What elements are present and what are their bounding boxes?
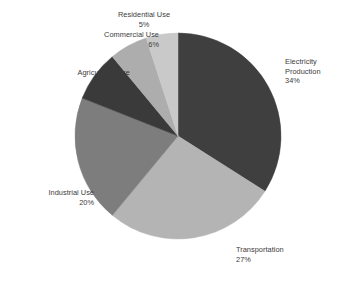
pie-chart-figure: Electricity Production 34% Transportatio… [0,0,341,282]
slice-label-value: 27% [236,255,284,265]
slice-label-residential-use: Residential Use 5% [118,10,170,29]
pie-slice-group [75,33,281,239]
slice-label-name-line1: Residential Use [118,10,170,20]
slice-label-name-line1: Transportation [236,245,284,255]
slice-label-industrial-use: Industrial Use 20% [49,188,94,207]
slice-label-commercial-use: Commercial Use 6% [104,30,159,49]
slice-label-agricultural-use: Agricultural Use 8% [78,68,130,87]
slice-label-name-line1: Electricity [285,57,321,67]
slice-label-name-line1: Industrial Use [49,188,94,198]
slice-label-transportation: Transportation 27% [236,245,284,264]
slice-label-name-line1: Commercial Use [104,30,159,40]
slice-label-name-line1: Agricultural Use [78,68,130,78]
slice-label-name-line2: Production [285,67,321,77]
slice-label-value: 20% [49,198,94,208]
pie-chart-svg [0,0,341,282]
slice-label-value: 6% [104,40,159,50]
slice-label-electricity-production: Electricity Production 34% [285,57,321,86]
slice-label-value: 8% [78,78,130,88]
slice-label-value: 5% [118,20,170,30]
slice-label-value: 34% [285,76,321,86]
